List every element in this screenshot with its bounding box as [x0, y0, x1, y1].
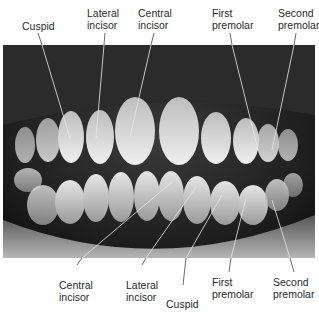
label-text-line1: Lateral [126, 279, 158, 291]
label-upper-first-premolar: First premolar [212, 7, 253, 31]
label-upper-cuspid: Cuspid [22, 20, 55, 32]
label-text-line1: Central [138, 7, 172, 19]
label-text-line2: incisor [126, 291, 158, 303]
teeth-illustration [3, 45, 315, 258]
label-text-line1: Central [59, 279, 93, 291]
label-text-line2: incisor [138, 19, 172, 31]
label-text-line1: First [212, 276, 253, 288]
label-upper-lateral-incisor: Lateral incisor [87, 7, 119, 31]
label-text-line1: Lateral [87, 7, 119, 19]
label-text: Cuspid [22, 20, 55, 32]
label-text-line2: premolar [273, 288, 314, 300]
label-lower-lateral-incisor: Lateral incisor [126, 279, 158, 303]
label-lower-second-premolar: Second premolar [273, 276, 314, 300]
label-upper-second-premolar: Second premolar [278, 7, 319, 31]
label-text-line2: premolar [212, 288, 253, 300]
label-text-line1: First [212, 7, 253, 19]
label-lower-central-incisor: Central incisor [59, 279, 93, 303]
label-text-line2: incisor [59, 291, 93, 303]
label-upper-central-incisor: Central incisor [138, 7, 172, 31]
label-text-line1: Second [273, 276, 314, 288]
label-text: Cuspid [166, 298, 199, 310]
label-text-line2: premolar [278, 19, 319, 31]
label-text-line2: incisor [87, 19, 119, 31]
label-text-line2: premolar [212, 19, 253, 31]
label-lower-first-premolar: First premolar [212, 276, 253, 300]
label-lower-cuspid: Cuspid [166, 298, 199, 310]
dental-photo [3, 45, 315, 258]
label-text-line1: Second [278, 7, 319, 19]
